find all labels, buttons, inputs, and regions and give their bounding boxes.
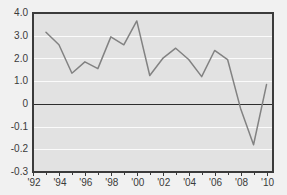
y-axis-tick-label: 3.0 [14,30,28,41]
x-axis-tick-label: '98 [105,177,118,188]
x-axis-tick-label: '92 [27,177,40,188]
y-axis-tick-label: 0 [22,98,28,109]
x-axis-tick-label: '04 [183,177,196,188]
x-axis-tick-label: '02 [157,177,170,188]
y-axis-tick-label: -0.1 [11,121,29,132]
x-axis-tick-label: '96 [79,177,92,188]
x-axis-tick-label: '08 [235,177,248,188]
chart-canvas: 4.03.02.01.00-0.1-0.2-0.3 '92'94'96'98'0… [0,0,287,195]
y-axis-tick-label: 4.0 [14,7,28,18]
y-axis-tick-label: -0.2 [11,143,29,154]
x-axis-tick-label: '10 [261,177,274,188]
x-axis-tick-label: '00 [131,177,144,188]
y-axis-tick-label: 2.0 [14,53,28,64]
line-chart: 4.03.02.01.00-0.1-0.2-0.3 '92'94'96'98'0… [0,0,287,195]
y-axis-tick-label: -0.3 [11,166,29,177]
y-axis-tick-label: 1.0 [14,75,28,86]
x-axis-tick-label: '94 [53,177,66,188]
x-axis-tick-label: '06 [209,177,222,188]
